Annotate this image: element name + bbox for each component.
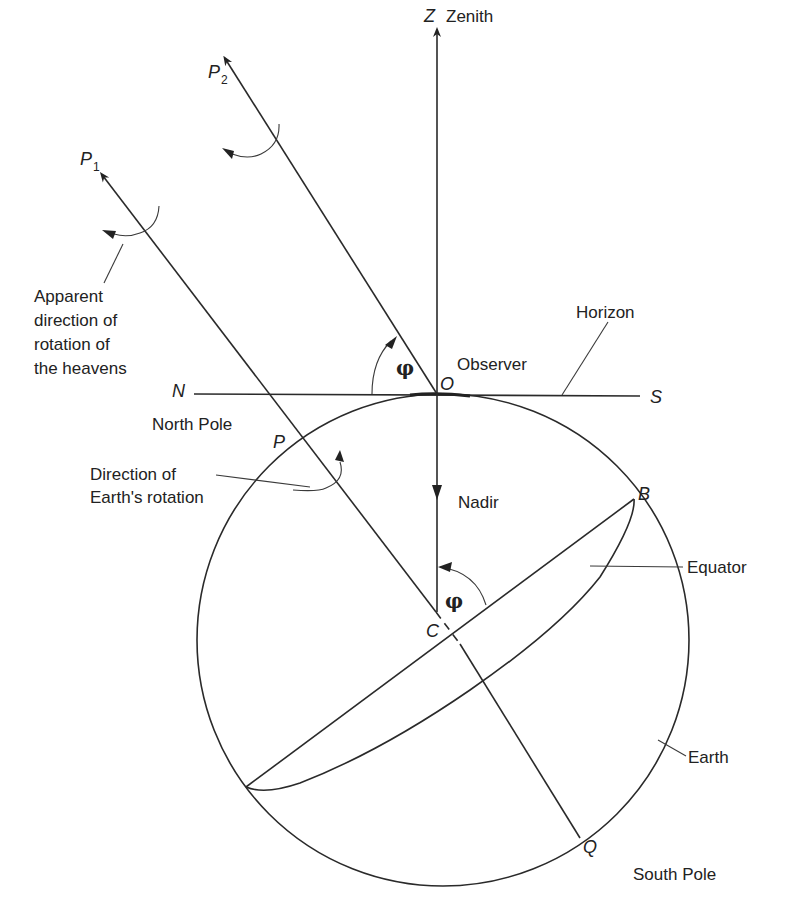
p2-label: P xyxy=(208,62,220,82)
equator-label: Equator xyxy=(687,558,747,577)
observer-label: Observer xyxy=(457,355,527,374)
north-pole-label: North Pole xyxy=(152,415,232,434)
p2-rotation-arrow-icon xyxy=(232,124,279,157)
zenith-var-label: Z xyxy=(423,6,436,26)
earth-rotation-label-2: Earth's rotation xyxy=(90,488,204,507)
apparent-label-1: Apparent xyxy=(34,287,103,306)
zenith-label: Zenith xyxy=(446,7,493,26)
phi-label-center: φ xyxy=(445,589,463,613)
horizon-leader xyxy=(562,322,608,395)
c-label: C xyxy=(426,621,440,641)
nadir-label: Nadir xyxy=(458,493,499,512)
earth-axis-hidden xyxy=(436,612,460,644)
earth-rotation-arrow-icon xyxy=(293,462,341,491)
phi-label-top: φ xyxy=(396,356,414,380)
q-label: Q xyxy=(583,837,597,857)
earth-axis-south xyxy=(460,644,580,838)
earth-label: Earth xyxy=(688,748,729,767)
b-label: B xyxy=(638,484,650,504)
p2-sub-label: 2 xyxy=(221,73,228,87)
apparent-label-3: rotation of xyxy=(34,335,110,354)
south-pole-label: South Pole xyxy=(633,865,716,884)
apparent-label-4: the heavens xyxy=(34,359,127,378)
p2-axis xyxy=(226,60,437,394)
n-label: N xyxy=(172,381,186,401)
horizon-label: Horizon xyxy=(576,303,635,322)
equator-chord xyxy=(246,499,634,787)
p1-sub-label: 1 xyxy=(93,160,100,174)
earth-rotation-leader xyxy=(216,475,310,487)
phi-angle-arc-top xyxy=(372,341,391,394)
celestial-sphere-diagram: Z Zenith P 2 P 1 Apparent direction of r… xyxy=(0,0,795,916)
apparent-label-2: direction of xyxy=(34,311,117,330)
equator-leader xyxy=(590,566,683,567)
apparent-leader xyxy=(104,244,123,283)
earth-rotation-label-1: Direction of xyxy=(90,465,176,484)
earth-leader xyxy=(658,740,686,756)
earth-axis xyxy=(103,176,436,612)
nadir-arrow-icon xyxy=(432,485,442,500)
s-label: S xyxy=(650,387,662,407)
p1-label: P xyxy=(80,149,92,169)
o-label: O xyxy=(440,374,454,394)
p-label: P xyxy=(273,432,285,452)
